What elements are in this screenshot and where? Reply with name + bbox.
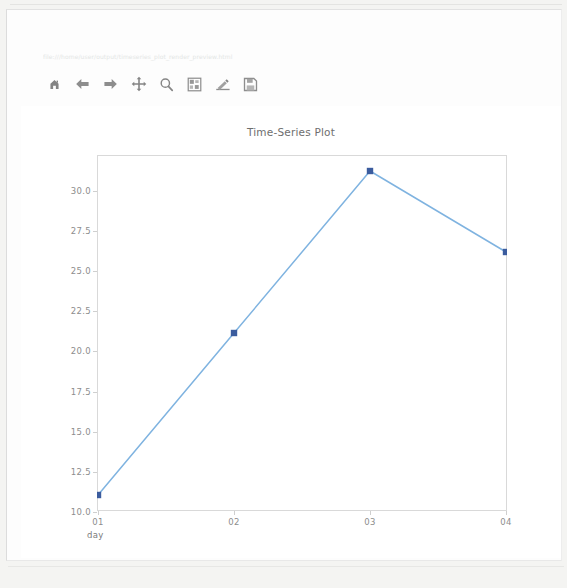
xtick-label: 01: [92, 517, 103, 527]
xtick-mark: [98, 511, 99, 515]
ytick-label: 10.0: [55, 507, 91, 517]
edit-axis-icon[interactable]: [213, 75, 232, 94]
screenshot-root: file:///home/user/output/timeseries_plot…: [0, 0, 567, 588]
ytick-mark: [93, 512, 97, 513]
faint-address-strip: file:///home/user/output/timeseries_plot…: [43, 53, 296, 61]
bottom-hairline-divider: [8, 566, 564, 567]
save-floppy-icon[interactable]: [241, 75, 260, 94]
ytick-label: 15.0: [55, 427, 91, 437]
ytick-mark: [93, 311, 97, 312]
ytick-mark: [93, 231, 97, 232]
xtick-label: 04: [500, 517, 511, 527]
ytick-mark: [93, 271, 97, 272]
pan-move-icon[interactable]: [129, 75, 148, 94]
home-icon[interactable]: [45, 75, 64, 94]
xtick-mark: [234, 511, 235, 515]
xaxis-label: day: [87, 530, 104, 540]
matplotlib-figure-canvas[interactable]: Time-Series Plot 10.0 12.5 15.0 17.5 20.…: [21, 106, 561, 558]
back-arrow-icon[interactable]: [73, 75, 92, 94]
ytick-label: 17.5: [55, 387, 91, 397]
ytick-label: 12.5: [55, 467, 91, 477]
xtick-label: 03: [364, 517, 375, 527]
ytick-label: 25.0: [55, 266, 91, 276]
ytick-mark: [93, 351, 97, 352]
xtick-mark: [506, 511, 507, 515]
matplotlib-toolbar: [45, 72, 260, 96]
forward-arrow-icon[interactable]: [101, 75, 120, 94]
xtick-mark: [370, 511, 371, 515]
ytick-mark: [93, 472, 97, 473]
xtick-label: 02: [228, 517, 239, 527]
plot-axes-frame: [97, 155, 507, 511]
subplots-config-icon[interactable]: [185, 75, 204, 94]
chart-title: Time-Series Plot: [21, 126, 561, 138]
ytick-label: 20.0: [55, 346, 91, 356]
ytick-label: 22.5: [55, 306, 91, 316]
ytick-mark: [93, 191, 97, 192]
ytick-label: 30.0: [55, 186, 91, 196]
ytick-mark: [93, 392, 97, 393]
ytick-label: 27.5: [55, 226, 91, 236]
top-hairline-divider: [10, 4, 562, 5]
application-window: file:///home/user/output/timeseries_plot…: [6, 9, 562, 561]
ytick-mark: [93, 432, 97, 433]
zoom-magnifier-icon[interactable]: [157, 75, 176, 94]
